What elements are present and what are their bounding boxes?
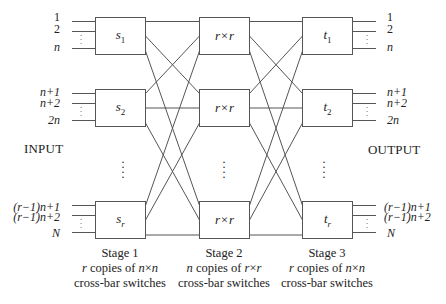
stage3-title: Stage 3 <box>267 246 387 261</box>
switch-label-mid-2: r×r <box>199 100 250 116</box>
stage1-title: Stage 1 <box>60 246 180 261</box>
output-label-N: N <box>387 228 395 239</box>
stage2-to-stage3-links <box>250 22 303 236</box>
stage3-ellipsis: ···· <box>321 160 327 180</box>
stage2-caption: Stage 2 n copies of r×r cross-bar switch… <box>164 246 284 291</box>
input-label-rn-plus-2: (r−1)n+2 <box>13 212 60 223</box>
input-ellipsis-r: ··· <box>78 218 84 230</box>
stage1-ellipsis: ···· <box>120 160 126 180</box>
stage1-to-stage2-links <box>146 22 200 236</box>
stage2-copies: n copies of r×r <box>164 261 284 276</box>
input-heading: INPUT <box>24 141 63 157</box>
input-label-n-plus-2: n+2 <box>40 98 60 109</box>
stage3-copies: r copies of n×n <box>267 261 387 276</box>
input-label-n: n <box>54 42 60 53</box>
stage1-caption: Stage 1 r copies of n×n cross-bar switch… <box>60 246 180 291</box>
stage3-caption: Stage 3 r copies of n×n cross-bar switch… <box>267 246 387 291</box>
stage2-type: cross-bar switches <box>164 276 284 291</box>
output-label-2n: 2n <box>387 115 399 126</box>
input-ellipsis-2: ··· <box>78 106 84 118</box>
output-label-rn-plus-2: (r−1)n+2 <box>384 212 431 223</box>
stage2-title: Stage 2 <box>164 246 284 261</box>
output-ellipsis-r: ··· <box>364 218 370 230</box>
input-ellipsis-1: ··· <box>78 34 84 46</box>
output-label-n-plus-2: n+2 <box>387 98 407 109</box>
output-heading: OUTPUT <box>368 142 420 158</box>
stage1-copies: r copies of n×n <box>60 261 180 276</box>
input-label-N: N <box>52 228 60 239</box>
switch-label-t2: t2 <box>302 99 353 117</box>
input-lines <box>72 22 96 233</box>
input-label-2: 2 <box>54 24 60 35</box>
switch-label-s2: s2 <box>95 99 146 117</box>
input-label-2n: 2n <box>48 115 60 126</box>
stage2-ellipsis: ···· <box>221 160 227 180</box>
stage3-type: cross-bar switches <box>267 276 387 291</box>
output-label-n: n <box>387 42 393 53</box>
switch-label-t1: t1 <box>302 27 353 45</box>
output-label-2: 2 <box>387 24 393 35</box>
switch-label-mid-r: r×r <box>199 212 250 228</box>
switch-label-mid-1: r×r <box>199 28 250 44</box>
output-lines <box>353 22 377 233</box>
stage1-type: cross-bar switches <box>60 276 180 291</box>
output-ellipsis-1: ··· <box>364 34 370 46</box>
output-ellipsis-2: ··· <box>364 106 370 118</box>
switch-label-sr: sr <box>95 211 146 229</box>
switch-label-tr: tr <box>302 211 353 229</box>
switch-label-s1: s1 <box>95 27 146 45</box>
